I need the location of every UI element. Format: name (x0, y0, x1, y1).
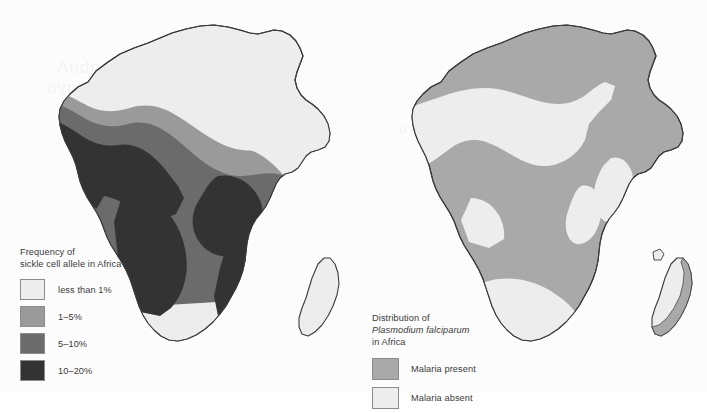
legend-item-less-than-1-percent: less than 1% (20, 279, 180, 300)
legend-label-less-than-1-percent: less than 1% (58, 285, 112, 295)
legend-title-line2-species: Plasmodium falciparum (372, 325, 470, 335)
legend-label-malaria-absent: Malaria absent (411, 393, 473, 403)
legend-label-malaria-present: Malaria present (411, 364, 476, 374)
legend-swatch-1-to-5-percent (20, 306, 45, 327)
legend-title-sickle-cell: Frequency of sickle cell allele in Afric… (20, 246, 180, 270)
legend-item-10-to-20-percent: 10–20% (20, 360, 180, 381)
legend-sickle-cell: Frequency of sickle cell allele in Afric… (20, 246, 180, 387)
map-comoros-island (653, 249, 664, 260)
legend-label-10-to-20-percent: 10–20% (58, 366, 92, 376)
legend-swatch-10-to-20-percent (20, 360, 45, 381)
legend-item-malaria-absent: Malaria absent (372, 387, 542, 409)
legend-malaria: Distribution of Plasmodium falciparum in… (372, 312, 542, 413)
legend-title-line1: Frequency of (20, 247, 75, 257)
legend-title-malaria: Distribution of Plasmodium falciparum in… (372, 312, 542, 349)
legend-swatch-5-to-10-percent (20, 333, 45, 354)
legend-label-1-to-5-percent: 1–5% (58, 312, 82, 322)
legend-swatch-malaria-absent (372, 387, 399, 409)
map-madagascar (299, 258, 339, 336)
legend-item-malaria-present: Malaria present (372, 358, 542, 380)
legend-item-5-to-10-percent: 5–10% (20, 333, 180, 354)
legend-rows-sickle-cell: less than 1% 1–5% 5–10% 10–20% (20, 279, 180, 381)
legend-swatch-malaria-present (372, 358, 399, 380)
legend-rows-malaria: Malaria present Malaria absent (372, 358, 542, 409)
legend-label-5-to-10-percent: 5–10% (58, 339, 87, 349)
legend-title-line3: in Africa (372, 337, 406, 347)
legend-swatch-less-than-1-percent (20, 279, 45, 300)
legend-title-line2: sickle cell allele in Africa (20, 259, 121, 269)
legend-title-line1: Distribution of (372, 313, 430, 323)
legend-item-1-to-5-percent: 1–5% (20, 306, 180, 327)
map-region-dark-spot-west (38, 156, 58, 172)
